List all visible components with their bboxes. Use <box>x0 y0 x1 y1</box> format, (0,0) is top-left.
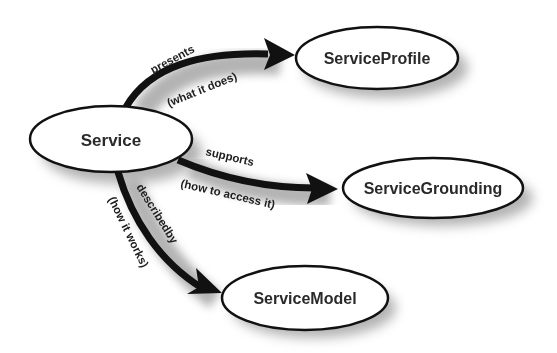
service-label: Service <box>81 131 142 150</box>
node-service[interactable]: Service <box>30 106 192 172</box>
service-model-label: ServiceModel <box>253 290 356 307</box>
supports-label: supports <box>205 145 256 168</box>
node-service-profile[interactable]: ServiceProfile <box>296 27 458 89</box>
node-service-grounding[interactable]: ServiceGrounding <box>343 158 523 218</box>
service-profile-label: ServiceProfile <box>324 50 431 67</box>
service-ontology-diagram: presents (what it does) supports (how to… <box>0 0 557 353</box>
node-service-model[interactable]: ServiceModel <box>222 266 388 330</box>
service-grounding-label: ServiceGrounding <box>364 180 503 197</box>
